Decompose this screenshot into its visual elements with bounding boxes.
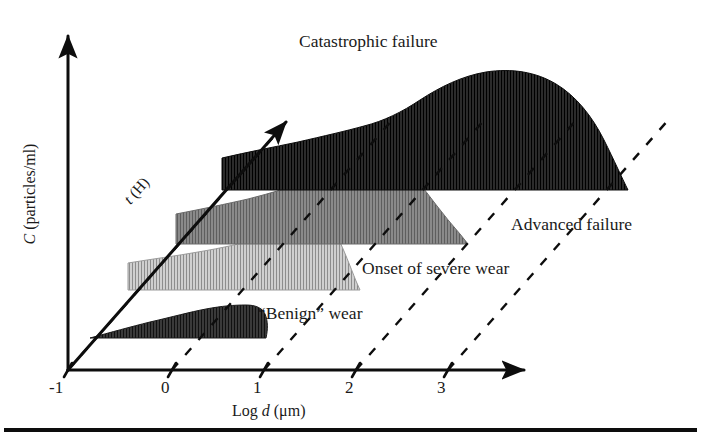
x-axis-label-units: (μm) — [270, 402, 306, 419]
bottom-rule — [4, 428, 697, 432]
curve-label-catastrophic-failure: Catastrophic failure — [299, 31, 438, 52]
x-tick-label-2: 2 — [345, 378, 354, 398]
curve-label-benign-wear: “Benign” wear — [258, 303, 362, 324]
y-axis-label: C (particles/ml) — [21, 94, 39, 294]
x-tick-label-0: 0 — [161, 378, 170, 398]
x-tick-label-3: 3 — [437, 378, 446, 398]
curve-benign-wear — [90, 305, 267, 338]
y-axis-label-units: (particles/ml) — [21, 144, 38, 234]
x-tick-label-1: 1 — [253, 378, 262, 398]
figure-canvas: C (particles/ml) t (H) -1 0 1 2 3 Log d … — [0, 0, 701, 440]
curve-benign-wear-area — [90, 305, 267, 338]
x-axis-label-symbol: d — [262, 402, 270, 419]
curve-label-onset-of-severe-wear: Onset of severe wear — [362, 258, 509, 279]
x-axis-label: Log d (μm) — [232, 402, 305, 420]
y-axis-label-symbol: C — [21, 234, 38, 245]
curve-catastrophic-failure-area — [222, 71, 628, 191]
curve-label-advanced-failure: Advanced failure — [511, 214, 632, 235]
x-axis-label-prefix: Log — [232, 402, 262, 419]
x-tick-label--1: -1 — [49, 378, 63, 398]
curve-catastrophic-failure — [222, 71, 628, 191]
